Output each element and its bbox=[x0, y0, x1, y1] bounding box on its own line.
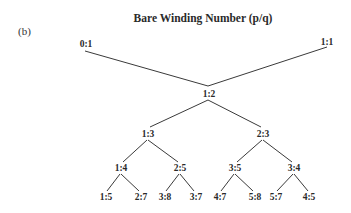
tree-edge bbox=[121, 174, 139, 191]
tree-node-label: 3:4 bbox=[288, 163, 301, 173]
tree-node-label: 4:5 bbox=[303, 192, 316, 202]
tree-node-label: 2:3 bbox=[257, 129, 270, 139]
farey-tree-diagram: 0:11:11:21:32:31:42:53:53:41:52:73:83:74… bbox=[0, 0, 351, 213]
tree-edge bbox=[221, 174, 234, 191]
tree-node-label: 3:5 bbox=[229, 163, 242, 173]
tree-node-label: 1:2 bbox=[203, 89, 216, 99]
tree-edge bbox=[123, 140, 147, 162]
tree-edge bbox=[277, 174, 293, 191]
tree-edge bbox=[208, 100, 261, 127]
farey-tree-figure: (b) Bare Winding Number (p/q) 0:11:11:21… bbox=[0, 0, 351, 213]
tree-node-label: 1:1 bbox=[321, 37, 334, 47]
tree-edge bbox=[263, 140, 292, 162]
tree-edge bbox=[166, 174, 179, 191]
tree-node-label: 2:7 bbox=[135, 192, 148, 202]
tree-node-label: 5:8 bbox=[249, 192, 262, 202]
tree-edge bbox=[85, 51, 208, 86]
tree-node-label: 4:7 bbox=[214, 192, 227, 202]
tree-node-label: 5:7 bbox=[270, 192, 283, 202]
tree-node-label: 0:1 bbox=[80, 39, 93, 49]
tree-node-label: 2:5 bbox=[174, 163, 187, 173]
tree-edge bbox=[235, 174, 253, 191]
tree-edge bbox=[148, 140, 178, 162]
tree-node-label: 1:3 bbox=[142, 129, 155, 139]
tree-node-label: 1:4 bbox=[115, 163, 128, 173]
tree-edge bbox=[237, 140, 262, 162]
tree-node-label: 1:5 bbox=[100, 192, 113, 202]
tree-edge bbox=[294, 174, 308, 191]
tree-edge bbox=[107, 174, 120, 191]
tree-node-label: 3:7 bbox=[190, 192, 203, 202]
tree-edge bbox=[150, 100, 208, 127]
tree-node-label: 3:8 bbox=[159, 192, 172, 202]
tree-edge bbox=[208, 47, 327, 86]
tree-edge bbox=[180, 174, 194, 191]
